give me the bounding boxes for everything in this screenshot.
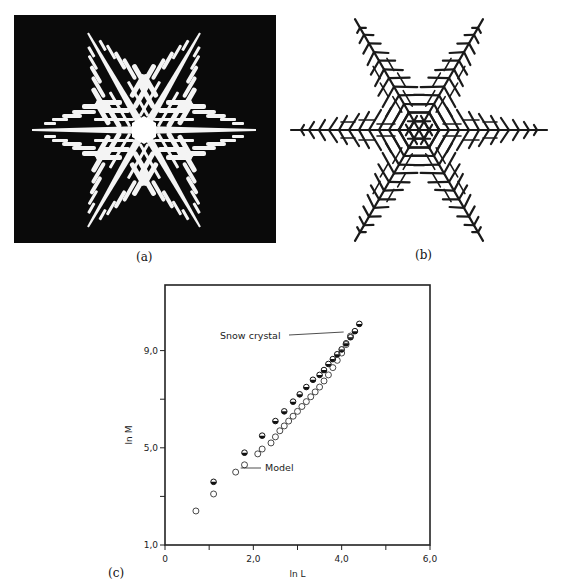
chart-canvas: 02,04,06,01,05,09,0ln Lln MSnow crystalM… xyxy=(100,265,460,587)
panel-a-caption: (a) xyxy=(136,250,153,264)
model-point xyxy=(295,408,301,414)
model-point xyxy=(303,399,309,405)
plot-frame xyxy=(165,285,430,545)
x-tick-label: 6,0 xyxy=(423,554,438,564)
model-snowflake-graphic xyxy=(288,10,550,245)
model-point xyxy=(290,413,296,419)
mass-size-scatter-chart: 02,04,06,01,05,09,0ln Lln MSnow crystalM… xyxy=(100,265,460,587)
model-point xyxy=(193,508,199,514)
y-axis-label: ln M xyxy=(124,426,134,445)
x-tick-label: 0 xyxy=(162,554,168,564)
y-tick-label: 9,0 xyxy=(144,346,159,356)
model-point xyxy=(242,462,248,468)
x-tick-label: 2,0 xyxy=(246,554,261,564)
y-tick-label: 1,0 xyxy=(144,540,159,550)
model-point xyxy=(308,394,314,400)
y-tick-label: 5,0 xyxy=(144,443,159,453)
x-tick-label: 4,0 xyxy=(335,554,350,564)
model-snowflake-simulation xyxy=(288,10,550,245)
x-axis-label: ln L xyxy=(289,569,305,579)
model-point xyxy=(317,384,323,390)
model-point xyxy=(233,469,239,475)
snow-crystal-photo xyxy=(14,15,276,243)
model-point xyxy=(259,446,265,452)
model-point xyxy=(272,434,278,440)
model-point xyxy=(299,403,305,409)
model-point xyxy=(277,428,283,434)
model-point xyxy=(286,418,292,424)
model-point xyxy=(281,423,287,429)
model-point xyxy=(211,491,217,497)
model-point xyxy=(312,389,318,395)
annotation-snow-crystal: Snow crystal xyxy=(220,330,281,341)
annotation-leader-line xyxy=(289,332,344,335)
model-point xyxy=(330,365,336,371)
model-point xyxy=(268,440,274,446)
model-point xyxy=(325,372,331,378)
annotation-model: Model xyxy=(265,462,294,473)
panel-b-caption: (b) xyxy=(415,248,432,262)
model-point xyxy=(321,378,327,384)
snowflake-photo-graphic xyxy=(14,15,276,243)
model-point xyxy=(255,451,261,457)
panel-c-caption: (c) xyxy=(108,566,124,580)
